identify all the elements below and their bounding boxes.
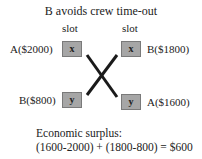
- surplus-formula: (1600-2000) + (1800-800) = $600: [36, 141, 193, 153]
- surplus-heading: Economic surplus:: [36, 127, 122, 139]
